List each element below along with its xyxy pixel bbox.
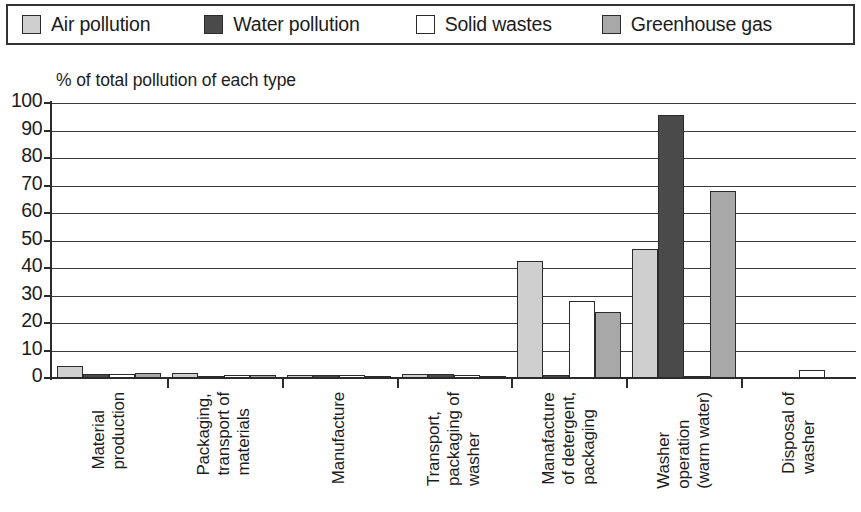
x-axis-category-label-text: Disposal of washer	[779, 392, 819, 474]
gridline	[52, 213, 856, 214]
gridline	[52, 103, 856, 104]
y-tick-label: 90	[0, 117, 42, 140]
x-axis-category-label: Disposal of washer	[743, 392, 855, 510]
gridline	[52, 351, 856, 352]
x-axis-category-label-text: Transport, packaging of washer	[424, 392, 484, 486]
bar	[658, 115, 684, 378]
x-axis-category-label-text: Material production	[89, 392, 129, 469]
y-tick-label: 40	[0, 254, 42, 277]
y-tick-label: 0	[0, 364, 42, 387]
y-tick-label: 50	[0, 227, 42, 250]
x-tick-mark	[167, 379, 169, 388]
gridline	[52, 158, 856, 159]
y-tick-label: 70	[0, 172, 42, 195]
gridline	[52, 268, 856, 269]
x-axis-category-label: Manafacture of detergent, packaging	[513, 392, 625, 510]
x-axis-category-label-text: Packaging, transport of materials	[194, 392, 254, 476]
bar	[595, 312, 621, 378]
gridline	[52, 241, 856, 242]
y-tick-label: 60	[0, 199, 42, 222]
x-axis-category-label: Material production	[53, 392, 165, 510]
x-axis-category-label-text: Washer operation (warm water)	[654, 392, 714, 489]
y-axis-line	[50, 101, 52, 380]
x-tick-mark	[282, 379, 284, 388]
gridline	[52, 296, 856, 297]
x-axis-category-label: Washer operation (warm water)	[628, 392, 740, 510]
gridline	[52, 323, 856, 324]
x-tick-mark	[397, 379, 399, 388]
bar	[517, 261, 543, 378]
gridline	[52, 131, 856, 132]
x-axis-category-label: Transport, packaging of washer	[398, 392, 510, 510]
chart-plot-area: 0102030405060708090100 Material producti…	[0, 0, 861, 512]
y-tick-label: 30	[0, 282, 42, 305]
x-tick-mark	[511, 379, 513, 388]
x-tick-mark	[741, 379, 743, 388]
y-tick-label: 10	[0, 337, 42, 360]
bar	[569, 301, 595, 378]
x-axis-category-label: Manufacture	[283, 392, 395, 510]
y-tick-label: 80	[0, 144, 42, 167]
x-axis-category-label-text: Manafacture of detergent, packaging	[539, 392, 599, 485]
x-axis-category-label-text: Manufacture	[329, 392, 349, 484]
x-axis-line	[50, 377, 856, 379]
x-axis-category-label: Packaging, transport of materials	[168, 392, 280, 510]
x-tick-mark	[626, 379, 628, 388]
gridline	[52, 186, 856, 187]
y-tick-label: 100	[0, 89, 42, 112]
y-tick-label: 20	[0, 309, 42, 332]
